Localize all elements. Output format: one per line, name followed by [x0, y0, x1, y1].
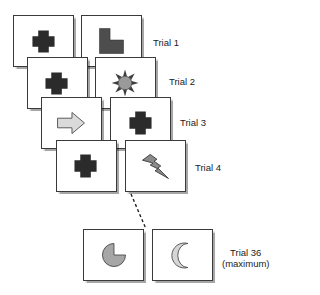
- trial-36-sublabel: (maximum): [222, 258, 270, 269]
- trial-4-left-card: [56, 140, 117, 192]
- trial-36-label: Trial 36 (maximum): [222, 247, 270, 269]
- trial-2-label: Trial 2: [169, 76, 195, 87]
- crescent-icon: [153, 230, 212, 280]
- pacman-icon: [84, 230, 143, 280]
- trial-4-label: Trial 4: [195, 162, 221, 173]
- lightning-icon: [126, 141, 185, 191]
- cross-icon: [57, 141, 116, 191]
- trial-4-right-card: [125, 140, 186, 192]
- trial-36-left-card: [83, 229, 144, 281]
- trial-36-title: Trial 36: [222, 247, 270, 258]
- trial-3-label: Trial 3: [180, 117, 206, 128]
- trial-1-label: Trial 1: [153, 37, 179, 48]
- trial-36-right-card: [152, 229, 213, 281]
